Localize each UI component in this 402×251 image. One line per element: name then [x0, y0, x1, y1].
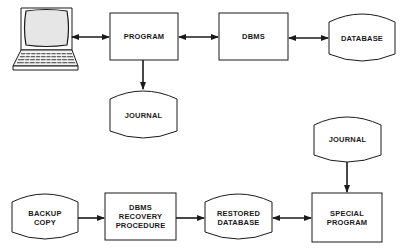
special-program-label: SPECIAL PROGRAM: [312, 193, 382, 242]
recovery-label: DBMS RECOVERY PROCEDURE: [105, 193, 176, 240]
restored-database-label: RESTORED DATABASE: [205, 195, 272, 240]
journal-2-label: JOURNAL: [314, 117, 381, 161]
journal-label: JOURNAL: [110, 92, 177, 139]
backup-copy-label: BACKUP COPY: [12, 195, 78, 240]
program-label: PROGRAM: [110, 13, 178, 60]
dbms-label: DBMS: [219, 13, 288, 60]
laptop-terminal-icon: [13, 8, 78, 70]
database-label: DATABASE: [329, 15, 395, 62]
